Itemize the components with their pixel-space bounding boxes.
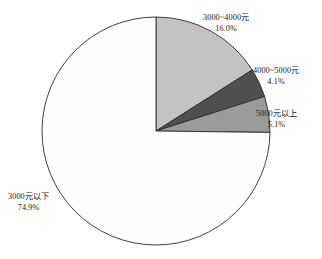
- pie-slice-label-percent: 16.0%: [203, 24, 249, 35]
- pie-slice-label-percent: 5.1%: [256, 120, 297, 131]
- pie-slice-label-name: 3000元以下: [8, 192, 49, 203]
- pie-slice-label-3000-below: 3000元以下 74.9%: [8, 192, 49, 213]
- pie-slice-label-3000-4000: 3000~4000元 16.0%: [203, 13, 249, 34]
- pie-slice-label-percent: 4.1%: [253, 77, 299, 88]
- pie-slice-label-percent: 74.9%: [8, 203, 49, 214]
- pie-slice-group: [42, 17, 270, 245]
- pie-slice-label-name: 5000元以上: [256, 109, 297, 120]
- pie-slice-label-5000-above: 5000元以上 5.1%: [256, 109, 297, 130]
- pie-slice-label-name: 4000~5000元: [253, 66, 299, 77]
- pie-slice-label-4000-5000: 4000~5000元 4.1%: [253, 66, 299, 87]
- pie-slice-label-name: 3000~4000元: [203, 13, 249, 24]
- pie-chart: 3000~4000元 16.0% 4000~5000元 4.1% 5000元以上…: [0, 0, 322, 259]
